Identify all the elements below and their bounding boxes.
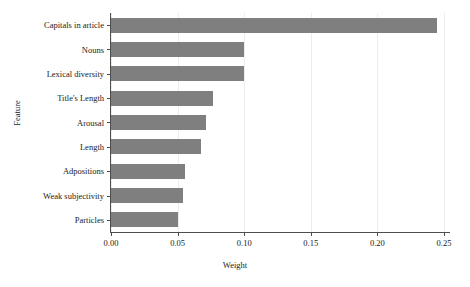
bar-row [111, 183, 183, 207]
x-tick-mark [178, 233, 179, 236]
y-tick-mark [107, 171, 110, 172]
bar-capitals-in-article [111, 18, 437, 33]
x-tick-label-2: 0.10 [237, 239, 252, 248]
bar-row [111, 208, 178, 232]
x-tick-mark [311, 233, 312, 236]
bar-row [111, 86, 213, 110]
bar-row [111, 110, 206, 134]
bar-row [111, 37, 244, 61]
y-tick-label-capitals-in-article: Capitals in article [0, 21, 104, 30]
bar-row [111, 159, 185, 183]
x-axis-title: Weight [0, 260, 470, 270]
y-tick-mark [107, 74, 110, 75]
bar-length [111, 139, 201, 154]
x-axis-spine [110, 232, 450, 233]
gridline-0.25 [444, 13, 445, 232]
bar-titles-length [111, 91, 213, 106]
y-tick-mark [107, 220, 110, 221]
x-tick-mark [111, 233, 112, 236]
bar-lexical-diversity [111, 66, 244, 81]
x-tick-mark [377, 233, 378, 236]
x-tick-label-4: 0.20 [370, 239, 385, 248]
y-tick-mark [107, 25, 110, 26]
x-tick-label-1: 0.05 [170, 239, 185, 248]
bar-row [111, 13, 437, 37]
y-tick-label-lexical-diversity: Lexical diversity [0, 70, 104, 79]
y-tick-mark [107, 147, 110, 148]
gridline-0.10 [244, 13, 245, 232]
plot-area [111, 13, 450, 232]
x-tick-label-5: 0.25 [437, 239, 452, 248]
bar-adpositions [111, 164, 185, 179]
y-tick-mark [107, 49, 110, 50]
y-tick-mark [107, 196, 110, 197]
y-tick-mark [107, 122, 110, 123]
bar-chart-figure: Capitals in article Nouns Lexical divers… [0, 0, 470, 287]
bar-particles [111, 212, 178, 227]
y-tick-label-weak-subjectivity: Weak subjectivity [0, 192, 104, 201]
x-tick-mark [444, 233, 445, 236]
bar-row [111, 135, 201, 159]
y-tick-label-length: Length [0, 143, 104, 152]
y-axis-spine [110, 13, 111, 233]
y-tick-label-adpositions: Adpositions [0, 167, 104, 176]
y-tick-label-particles: Particles [0, 216, 104, 225]
y-tick-label-nouns: Nouns [0, 46, 104, 55]
bar-nouns [111, 42, 244, 57]
gridline-0.15 [311, 13, 312, 232]
bar-weak-subjectivity [111, 188, 183, 203]
x-tick-mark [244, 233, 245, 236]
y-axis-title: Feature [12, 83, 22, 143]
x-tick-label-0: 0.00 [104, 239, 119, 248]
bar-row [111, 62, 244, 86]
y-tick-mark [107, 98, 110, 99]
gridline-0.20 [377, 13, 378, 232]
x-tick-label-3: 0.15 [303, 239, 318, 248]
bar-arousal [111, 115, 206, 130]
